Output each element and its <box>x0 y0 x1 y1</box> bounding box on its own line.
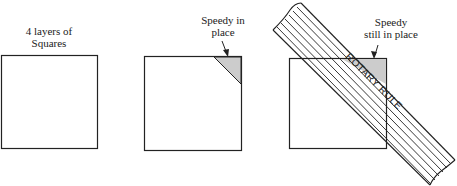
arrow-icon <box>222 41 229 57</box>
diagram-canvas: ROTARY RULE <box>0 0 457 186</box>
arrow-icon-2 <box>371 45 378 59</box>
rotary-rule: ROTARY RULE <box>273 3 455 185</box>
speedy-triangle <box>214 57 241 84</box>
square-stack <box>2 56 98 149</box>
